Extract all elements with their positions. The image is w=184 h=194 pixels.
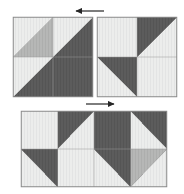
unit-b-bottom-right bbox=[137, 57, 177, 97]
unit-b-top-left bbox=[97, 17, 137, 57]
unit-c-bottom-left bbox=[21, 149, 58, 187]
unit-a-bottom-left bbox=[13, 57, 53, 97]
unit-a-top-left bbox=[13, 17, 53, 57]
joined-quilt-block bbox=[21, 111, 167, 187]
unit-a-bottom-right bbox=[53, 57, 93, 97]
unit-c-top-midright bbox=[94, 111, 131, 149]
unit-c-bottom-midleft bbox=[58, 149, 95, 187]
unit-c-top-midleft bbox=[58, 111, 95, 149]
quilt-diagram-canvas bbox=[0, 0, 184, 194]
quilt-assembly-diagram bbox=[0, 0, 184, 194]
right-quilt-block bbox=[97, 17, 177, 97]
unit-a-top-right bbox=[53, 17, 93, 57]
unit-c-top-left bbox=[21, 111, 58, 149]
unit-c-bottom-midright bbox=[94, 149, 131, 187]
unit-b-bottom-left bbox=[97, 57, 137, 97]
unit-c-top-right bbox=[131, 111, 168, 149]
left-quilt-block bbox=[13, 17, 93, 97]
unit-c-bottom-right bbox=[131, 149, 168, 187]
unit-b-top-right bbox=[137, 17, 177, 57]
